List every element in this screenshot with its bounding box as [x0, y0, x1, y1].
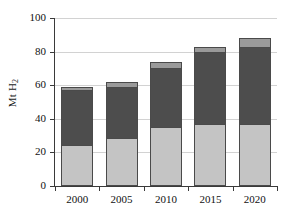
x-axis-tick-mark — [277, 187, 278, 191]
y-axis-tick-mark — [50, 119, 55, 120]
y-axis-tick-label: 80 — [6, 46, 46, 57]
x-axis-tick-mark — [233, 187, 234, 191]
bar-segment-divider — [106, 138, 138, 139]
x-axis-tick-label: 2005 — [99, 194, 145, 205]
y-axis-tick-mark — [50, 85, 55, 86]
bar-segment-segment-middle-2005 — [106, 87, 138, 138]
bar-segment-segment-top-2015 — [194, 47, 226, 53]
y-axis-tick-mark — [50, 18, 55, 19]
bar-segment-divider — [150, 127, 182, 128]
bar-segment-divider — [194, 124, 226, 125]
y-axis-tick-mark — [50, 52, 55, 53]
bar-stack-2015 — [194, 18, 226, 186]
x-axis-line — [54, 186, 278, 187]
bar-segment-divider — [106, 87, 138, 88]
bar-stack-2020 — [239, 18, 271, 186]
bar-stack-2010 — [150, 18, 182, 186]
bar-stack-2000 — [61, 18, 93, 186]
x-axis-tick-label: 2020 — [232, 194, 278, 205]
y-axis-tick-label: 60 — [6, 79, 46, 90]
bar-segment-divider — [239, 124, 271, 125]
bar-segment-segment-top-2000 — [61, 87, 93, 90]
x-axis-tick-mark — [144, 187, 145, 191]
bar-segment-divider — [239, 47, 271, 48]
bar-segment-segment-middle-2020 — [239, 47, 271, 124]
x-axis-tick-label: 2010 — [143, 194, 189, 205]
bar-segment-segment-middle-2010 — [150, 68, 182, 127]
bar-segment-segment-bottom-2000 — [61, 145, 93, 186]
y-axis-title: Mt H2 — [4, 0, 22, 186]
x-axis-tick-label: 2000 — [54, 194, 100, 205]
bar-segment-segment-bottom-2020 — [239, 124, 271, 186]
bar-stack-2005 — [106, 18, 138, 186]
bar-segment-segment-bottom-2005 — [106, 138, 138, 186]
hydrogen-production-stacked-bar-chart: Mt H2 02040608010020002005201020152020 — [0, 0, 289, 217]
x-axis-tick-mark — [99, 187, 100, 191]
bar-segment-segment-bottom-2010 — [150, 127, 182, 186]
bar-segment-segment-middle-2000 — [61, 90, 93, 145]
bar-segment-divider — [150, 68, 182, 69]
bar-segment-segment-middle-2015 — [194, 52, 226, 123]
bar-segment-segment-top-2020 — [239, 38, 271, 46]
y-axis-tick-label: 100 — [6, 12, 46, 23]
bar-segment-segment-top-2005 — [106, 82, 138, 87]
y-axis-tick-mark — [50, 152, 55, 153]
x-axis-tick-mark — [188, 187, 189, 191]
y-axis-tick-label: 40 — [6, 113, 46, 124]
bar-segment-divider — [194, 52, 226, 53]
bar-segment-divider — [61, 145, 93, 146]
x-axis-tick-label: 2015 — [187, 194, 233, 205]
bar-segment-segment-bottom-2015 — [194, 124, 226, 186]
bar-segment-divider — [61, 90, 93, 91]
bar-segment-segment-top-2010 — [150, 62, 182, 69]
x-axis-tick-mark — [55, 187, 56, 191]
y-axis-tick-label: 20 — [6, 146, 46, 157]
y-axis-tick-label: 0 — [6, 180, 46, 191]
